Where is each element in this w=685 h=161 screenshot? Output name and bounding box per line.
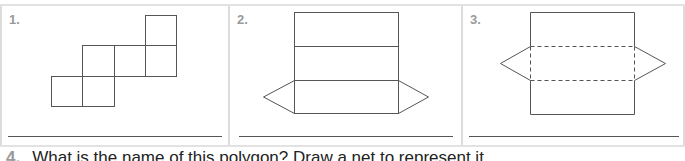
prism-net-figure [264, 13, 429, 114]
prism-net-dashed-figure [501, 13, 666, 115]
net-figures [0, 0, 685, 161]
question-4: 4.What is the name of this polygon? Draw… [6, 148, 489, 161]
question-text: What is the name of this polygon? Draw a… [32, 148, 488, 161]
bottom-border [0, 145, 685, 147]
cube-net-figure [52, 16, 177, 107]
question-number: 4. [6, 148, 20, 161]
